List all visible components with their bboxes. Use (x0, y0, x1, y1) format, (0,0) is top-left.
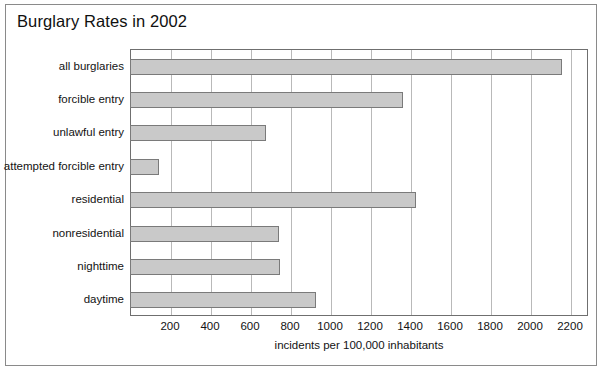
bar (130, 125, 266, 141)
gridline (491, 50, 492, 315)
gridline (571, 50, 572, 315)
category-label: attempted forcible entry (4, 160, 124, 172)
x-tick-label: 1000 (317, 320, 343, 332)
x-tick-label: 1200 (357, 320, 383, 332)
chart-title: Burglary Rates in 2002 (17, 12, 187, 31)
plot-area (130, 49, 588, 316)
x-tick-label: 1400 (397, 320, 423, 332)
category-label: daytime (84, 293, 124, 305)
category-label: unlawful entry (53, 126, 124, 138)
gridline (531, 50, 532, 315)
chart-figure: Burglary Rates in 2002 all burglariesfor… (0, 0, 606, 373)
bar (130, 159, 159, 175)
bar (130, 192, 416, 208)
bar (130, 226, 279, 242)
x-tick-label: 400 (200, 320, 219, 332)
x-tick-label: 600 (240, 320, 259, 332)
gridline (171, 50, 172, 315)
gridline (411, 50, 412, 315)
category-label: nonresidential (52, 227, 124, 239)
x-tick-label: 1800 (477, 320, 503, 332)
category-label: residential (72, 193, 124, 205)
category-label: forcible entry (58, 93, 124, 105)
bar (130, 92, 403, 108)
x-tick-label: 200 (160, 320, 179, 332)
category-axis-labels: all burglariesforcible entryunlawful ent… (0, 49, 124, 316)
bar (130, 292, 316, 308)
gridline (331, 50, 332, 315)
x-tick-label: 1600 (437, 320, 463, 332)
x-tick-label: 2200 (557, 320, 583, 332)
x-tick-label: 800 (280, 320, 299, 332)
bar (130, 59, 562, 75)
gridline (211, 50, 212, 315)
gridline (451, 50, 452, 315)
gridline (251, 50, 252, 315)
bar (130, 259, 280, 275)
x-tick-label: 2000 (517, 320, 543, 332)
x-axis-title: incidents per 100,000 inhabitants (130, 339, 588, 351)
category-label: nighttime (77, 260, 124, 272)
x-axis-tick-labels: 2004006008001000120014001600180020002200 (0, 320, 606, 338)
category-label: all burglaries (59, 60, 124, 72)
gridline (291, 50, 292, 315)
gridline (371, 50, 372, 315)
